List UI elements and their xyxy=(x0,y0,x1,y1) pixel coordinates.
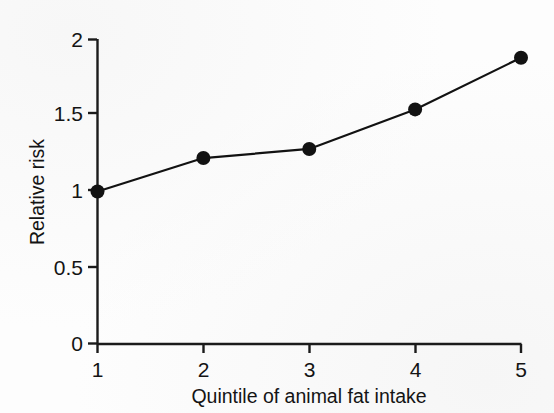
x-axis-title: Quintile of animal fat intake xyxy=(191,385,426,407)
x-tick-label-group: 1 2 3 4 5 xyxy=(92,358,527,381)
y-tick-label-group: 2 1.5 1 0.5 0 xyxy=(54,28,83,355)
y-tick-label-1-5: 1.5 xyxy=(54,102,83,125)
data-point-5 xyxy=(514,51,528,65)
x-tick-label-4: 4 xyxy=(410,358,422,381)
data-point-2 xyxy=(196,151,210,165)
relative-risk-line-chart: 2 1.5 1 0.5 0 1 2 3 4 5 Quintile of anim… xyxy=(0,0,554,413)
axis-spines xyxy=(97,39,522,344)
figure-panel: 2 1.5 1 0.5 0 1 2 3 4 5 Quintile of anim… xyxy=(0,0,554,413)
y-tick-label-1: 1 xyxy=(71,179,83,202)
data-point-1 xyxy=(91,185,105,199)
x-tick-label-1: 1 xyxy=(92,358,104,381)
y-axis-title: Relative risk xyxy=(26,139,48,245)
data-series-line xyxy=(98,58,522,192)
data-point-4 xyxy=(408,102,422,116)
y-tick-label-0-5: 0.5 xyxy=(54,256,83,279)
y-tick-label-2: 2 xyxy=(71,28,83,51)
x-tick-label-2: 2 xyxy=(198,358,210,381)
x-tick-label-3: 3 xyxy=(304,358,316,381)
data-point-markers xyxy=(91,51,529,199)
data-point-3 xyxy=(302,142,316,156)
x-tick-label-5: 5 xyxy=(515,358,527,381)
y-tick-label-0: 0 xyxy=(71,332,83,355)
x-axis-ticks xyxy=(98,344,522,353)
